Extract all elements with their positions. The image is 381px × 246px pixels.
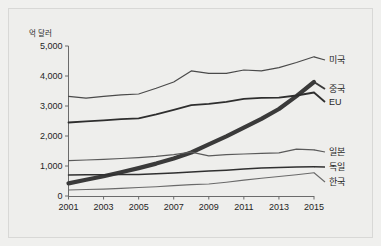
x-tick-label: 2011 [234, 202, 253, 212]
line-chart: 억 달러 01,0002,0003,0004,0005,000 20012003… [0, 0, 381, 246]
leader-line-EU [314, 93, 325, 103]
x-tick-label: 2005 [129, 202, 149, 212]
series-label-중국: 중국 [329, 84, 345, 94]
y-tick-label: 1,000 [40, 161, 63, 171]
y-tick-label: 5,000 [40, 41, 63, 51]
x-tick-label: 2007 [164, 202, 184, 212]
series-labels: 미국중국EU일본독일한국 [314, 55, 345, 187]
series-lines [69, 57, 315, 190]
y-axis-ticks: 01,0002,0003,0004,0005,000 [40, 41, 69, 201]
y-tick-label: 2,000 [40, 131, 63, 141]
x-tick-label: 2003 [94, 202, 114, 212]
series-label-미국: 미국 [329, 55, 345, 65]
x-axis-ticks: 20012003200520072009201120132015 [58, 196, 324, 212]
x-tick-label: 2013 [269, 202, 289, 212]
series-label-EU: EU [329, 97, 342, 107]
series-label-일본: 일본 [329, 147, 345, 157]
series-label-독일: 독일 [329, 162, 345, 172]
x-tick-label: 2009 [199, 202, 219, 212]
leader-line-한국 [314, 173, 325, 182]
series-line-미국 [69, 57, 315, 98]
y-tick-label: 4,000 [40, 71, 63, 81]
leader-line-미국 [314, 57, 325, 60]
leader-line-중국 [314, 82, 325, 89]
leader-line-일본 [314, 150, 325, 152]
series-label-한국: 한국 [329, 177, 345, 187]
series-line-EU [69, 93, 315, 123]
x-tick-label: 2015 [304, 202, 324, 212]
y-tick-label: 0 [57, 191, 62, 201]
x-tick-label: 2001 [58, 202, 78, 212]
y-axis-unit-label: 억 달러 [29, 29, 52, 38]
y-tick-label: 3,000 [40, 101, 63, 111]
chart-figure: 억 달러 01,0002,0003,0004,0005,000 20012003… [0, 0, 381, 246]
